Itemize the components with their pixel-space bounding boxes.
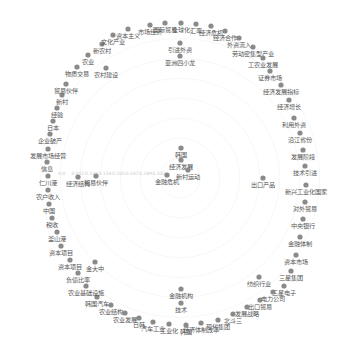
graph-node[interactable]: 韩国 — [180, 322, 192, 335]
graph-node[interactable]: 金大中 — [86, 259, 104, 272]
node-label: 农村建设 — [94, 71, 118, 79]
graph-node[interactable]: 对外贸易 — [293, 199, 317, 212]
graph-node[interactable]: 纺织行业 — [247, 274, 271, 287]
node-label: 仁川港 — [39, 179, 58, 187]
graph-node[interactable]: 发展市场经营 — [30, 146, 66, 159]
node-label: 技术引进 — [293, 169, 317, 177]
graph-node[interactable]: 资本项目 — [49, 243, 73, 256]
node-label: 农户收入 — [36, 193, 60, 201]
axis-tick-label: 0.154 — [99, 171, 112, 176]
node-label: 发展阶段 — [291, 153, 315, 161]
node-label: 贸易伙伴 — [54, 87, 78, 95]
node-label: 农业发展 — [113, 316, 137, 324]
node-label: 负债比率 — [66, 276, 90, 284]
node-label: 税收 — [46, 221, 58, 229]
graph-node[interactable]: 韩国 — [175, 145, 187, 158]
radial-axis-labels: 0.00.0510.1030.1540.2050.2470.2890.332 — [58, 171, 166, 176]
node-label: 资本项目 — [49, 249, 73, 257]
node-label: 中央银行 — [291, 222, 315, 230]
node-label: 资本项目 — [58, 263, 82, 271]
graph-node[interactable]: 技术引进 — [293, 163, 317, 176]
graph-node[interactable]: 金融机构 — [169, 286, 193, 299]
graph-node[interactable]: 企业破产 — [38, 131, 62, 144]
node-label: 资本市场 — [284, 258, 308, 266]
axis-tick-label: 0.205 — [112, 171, 125, 176]
node-label: 利用外资 — [282, 121, 306, 129]
circular-graph: 0.00.0510.1030.1540.2050.2470.2890.332 全… — [0, 0, 360, 350]
graph-node[interactable]: 金融体制 — [288, 234, 312, 247]
graph-node[interactable]: 国际贸易 — [153, 20, 177, 33]
node-label: 新农村 — [93, 47, 111, 55]
node-label: 企业破产 — [38, 137, 62, 145]
graph-node[interactable]: 农业基础设施 — [68, 283, 104, 296]
node-label: 劳动密集型产业 — [232, 50, 274, 58]
node-label: 资本主义 — [116, 32, 140, 40]
graph-node[interactable]: 新兴工业化国家 — [285, 182, 327, 195]
node-label: 贸易伙伴 — [84, 179, 108, 187]
graph-node[interactable]: 技术 — [175, 300, 187, 313]
node-label: 证券市场 — [258, 74, 282, 82]
node-label: 经济增长 — [277, 103, 301, 111]
node-label: 釜山港 — [48, 235, 67, 243]
graph-node[interactable]: 税收 — [46, 215, 58, 228]
node-label: 经验 — [51, 111, 64, 119]
graph-node[interactable]: 仁川港 — [39, 173, 58, 186]
node-label: 工农业发展 — [248, 61, 278, 69]
graph-node[interactable]: 经验 — [51, 105, 64, 118]
node-label: 沿江省份 — [288, 136, 313, 144]
node-label: 发展市场经营 — [30, 152, 66, 160]
node-label: 经济发展指标 — [263, 88, 299, 96]
node-label: 纺织行业 — [247, 280, 271, 288]
node-label: 韩国 — [175, 151, 187, 159]
graph-node[interactable]: 沿江省份 — [288, 130, 313, 143]
graph-node[interactable]: 证券市场 — [258, 68, 282, 81]
graph-node[interactable]: 新村 — [56, 92, 68, 105]
graph-nodes: 全球化汇率经济危机经济合作外资流入劳动密集型产业工农业发展证券市场经济发展指标经… — [30, 20, 327, 335]
node-label: 韩国汽车 — [85, 300, 109, 308]
node-label: 亚洲四小龙 — [165, 59, 195, 67]
graph-node[interactable]: 三星集团 — [279, 268, 303, 281]
axis-tick-label: 0.247 — [126, 171, 139, 176]
node-label: 新村 — [56, 98, 68, 106]
graph-node[interactable]: 日本 — [47, 118, 59, 131]
graph-node[interactable]: 贸易伙伴 — [54, 81, 78, 94]
node-label: 金大中 — [86, 265, 104, 273]
axis-tick-label: 0.0 — [58, 171, 65, 176]
node-label: 韩国 — [180, 328, 192, 336]
graph-node[interactable]: 农业 — [82, 52, 94, 65]
graph-node[interactable]: 农村建设 — [94, 65, 118, 78]
graph-node[interactable]: 经济发展指标 — [263, 82, 299, 95]
node-label: 三星集团 — [279, 274, 303, 282]
graph-node[interactable]: 信息 — [41, 159, 53, 172]
node-label: 农业结构 — [99, 308, 123, 316]
node-label: 新村运动 — [176, 173, 200, 181]
graph-node[interactable]: 韩国汽车 — [85, 294, 109, 307]
node-label: 信息 — [41, 165, 53, 173]
node-label: 国际贸易 — [153, 26, 177, 34]
node-label: 文化产业 — [101, 38, 125, 46]
graph-node[interactable]: 中央银行 — [291, 216, 315, 229]
graph-node[interactable]: 中国 — [43, 201, 55, 214]
graph-node[interactable]: 负债比率 — [66, 270, 90, 283]
graph-node[interactable]: 资本主义 — [116, 26, 140, 39]
graph-node[interactable]: 亚洲四小龙 — [165, 53, 195, 66]
node-label: 中国 — [43, 207, 55, 215]
graph-node[interactable]: 出口产品 — [251, 175, 275, 188]
node-label: 物质交易 — [65, 70, 89, 78]
node-label: 技术 — [175, 306, 187, 314]
graph-node[interactable]: 物质交易 — [65, 64, 89, 77]
graph-node[interactable]: 发展阶段 — [291, 147, 315, 160]
graph-node[interactable]: 工农业发展 — [248, 55, 278, 68]
graph-node[interactable]: 引进外资 — [168, 40, 192, 53]
graph-node[interactable]: 利用外资 — [282, 115, 306, 128]
axis-tick-label: 0.289 — [139, 171, 152, 176]
node-label: 出口产品 — [251, 181, 275, 189]
graph-node[interactable]: 经济增长 — [277, 97, 301, 110]
node-label: 金融机构 — [169, 292, 193, 300]
graph-node[interactable]: 资本市场 — [284, 252, 308, 265]
node-label: 外资流入 — [227, 41, 251, 49]
node-label: 对外贸易 — [293, 205, 317, 213]
graph-node[interactable]: 农户收入 — [36, 187, 60, 200]
graph-node[interactable]: 资本项目 — [58, 257, 82, 270]
node-label: 引进外资 — [168, 46, 192, 54]
